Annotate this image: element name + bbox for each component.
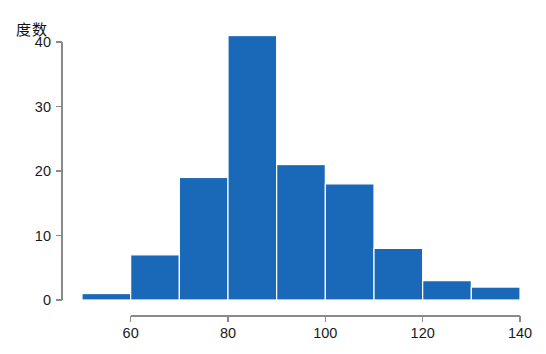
x-axis-ticks: 6080100120140 bbox=[123, 316, 533, 341]
histogram-bar bbox=[423, 281, 472, 300]
x-tick-label: 140 bbox=[508, 325, 532, 341]
y-axis-ticks: 010203040 bbox=[35, 34, 62, 308]
y-tick-label: 30 bbox=[35, 99, 51, 115]
histogram-bar bbox=[228, 36, 277, 300]
y-tick-label: 20 bbox=[35, 163, 51, 179]
x-tick-label: 80 bbox=[220, 325, 236, 341]
x-tick-label: 60 bbox=[123, 325, 139, 341]
bar-series bbox=[82, 36, 520, 300]
plot-area: 010203040 6080100120140 bbox=[0, 0, 546, 354]
y-tick-label: 40 bbox=[35, 34, 51, 50]
histogram-bar bbox=[277, 165, 326, 300]
x-tick-label: 120 bbox=[411, 325, 435, 341]
y-tick-label: 0 bbox=[43, 292, 51, 308]
histogram-bar bbox=[131, 255, 180, 300]
histogram-chart: 度数 010203040 6080100120140 bbox=[0, 0, 546, 354]
histogram-bar bbox=[374, 248, 423, 300]
histogram-bar bbox=[325, 184, 374, 300]
histogram-bar bbox=[179, 177, 228, 300]
x-tick-label: 100 bbox=[313, 325, 337, 341]
histogram-bar bbox=[471, 287, 520, 300]
y-tick-label: 10 bbox=[35, 228, 51, 244]
histogram-bar bbox=[82, 294, 131, 300]
